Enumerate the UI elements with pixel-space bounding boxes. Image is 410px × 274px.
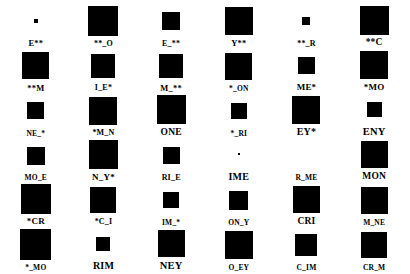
- cell-label: *C_I: [95, 218, 113, 226]
- swatch-container: [273, 227, 341, 262]
- grid-cell: MO_E: [2, 138, 70, 183]
- black-square-swatch: [295, 234, 317, 256]
- grid-cell: *M_N: [70, 93, 138, 138]
- black-square-swatch: [225, 7, 253, 35]
- cell-label: *MO: [364, 83, 385, 92]
- cell-label: IM_*: [162, 219, 180, 227]
- swatch-container: [205, 183, 273, 218]
- cell-label: **M: [27, 84, 44, 93]
- cell-label: E_**: [162, 40, 180, 48]
- cell-label: *_ON: [229, 85, 249, 93]
- black-square-swatch: [225, 53, 252, 80]
- black-square-swatch: [302, 17, 310, 25]
- cell-label: ENY: [363, 127, 386, 138]
- cell-label: NEY: [160, 261, 183, 272]
- black-square-swatch: [231, 103, 247, 119]
- swatch-container: [2, 49, 70, 83]
- swatch-container: [205, 227, 273, 262]
- grid-cell: **M: [2, 49, 70, 94]
- grid-cell: I_E*: [70, 49, 138, 94]
- black-square-swatch: [96, 237, 110, 251]
- swatch-container: [205, 4, 273, 38]
- black-square-swatch: [162, 12, 180, 30]
- swatch-container: [2, 4, 70, 38]
- swatch-container: [205, 49, 273, 84]
- swatch-container: [2, 183, 70, 217]
- grid-cell: *C_I: [70, 183, 138, 228]
- cell-label: RIM: [93, 261, 114, 271]
- black-square-swatch: [158, 230, 185, 257]
- cell-label: I_E*: [95, 84, 112, 92]
- black-square-swatch: [360, 51, 388, 79]
- cell-label: ONE: [161, 128, 182, 138]
- grid-cell: R_ME: [273, 138, 341, 183]
- swatch-container: [2, 138, 70, 173]
- cell-label: MON: [362, 172, 386, 182]
- swatch-container: [2, 227, 70, 262]
- grid-cell: *_ON: [205, 49, 273, 94]
- swatch-container: [340, 49, 408, 83]
- cell-label: Y**: [231, 39, 246, 48]
- swatch-container: [70, 183, 138, 218]
- grid-cell: ON_Y: [205, 183, 273, 228]
- black-square-swatch: [360, 6, 389, 35]
- black-square-swatch: [27, 147, 45, 165]
- cell-label: C_IM: [297, 264, 317, 272]
- black-square-swatch: [361, 232, 387, 258]
- grid-cell: E_**: [137, 4, 205, 49]
- grid-cell: *CR: [2, 183, 70, 228]
- cell-label: M_NE: [363, 219, 385, 227]
- swatch-container: [137, 49, 205, 83]
- black-square-swatch: [163, 147, 180, 164]
- cell-label: RI_E: [162, 174, 181, 182]
- black-square-swatch: [367, 102, 382, 117]
- black-square-swatch: [34, 19, 38, 23]
- cell-label: **C: [366, 38, 383, 48]
- grid-cell: Y**: [205, 4, 273, 49]
- grid-cell: *_RI: [205, 93, 273, 138]
- cell-label: O_EY: [228, 264, 249, 272]
- black-square-swatch: [27, 102, 44, 119]
- swatch-container: [273, 183, 341, 216]
- grid-cell: E**: [2, 4, 70, 49]
- swatch-container: [340, 4, 408, 37]
- cell-label: NE_*: [26, 130, 45, 138]
- black-square-swatch: [90, 187, 116, 213]
- grid-cell: ME*: [273, 49, 341, 94]
- grid-cell: NE_*: [2, 93, 70, 138]
- cell-label: M_**: [160, 84, 182, 93]
- swatch-container: [340, 93, 408, 125]
- black-square-swatch: [88, 6, 118, 36]
- grid-cell: N_Y*: [70, 138, 138, 183]
- grid-cell: *MO: [340, 49, 408, 94]
- swatch-container: [340, 183, 408, 218]
- cell-label: CR_M: [363, 264, 385, 272]
- swatch-container: [273, 138, 341, 173]
- grid-cell: **_R: [273, 4, 341, 49]
- black-square-swatch: [89, 140, 118, 169]
- grid-cell: **_O: [70, 4, 138, 49]
- cell-label: **_O: [94, 40, 113, 48]
- black-square-swatch: [229, 191, 248, 210]
- grid-cell: M_**: [137, 49, 205, 94]
- swatch-container: [205, 93, 273, 128]
- swatch-container: [340, 138, 408, 171]
- cell-label: *M_N: [92, 129, 114, 137]
- black-square-swatch: [159, 54, 183, 78]
- black-square-swatch: [22, 52, 49, 79]
- grid-cell: **C: [340, 4, 408, 49]
- cell-label: R_ME: [295, 174, 317, 182]
- cell-label: E**: [28, 39, 43, 48]
- swatch-container: [70, 93, 138, 128]
- square-label-grid: E****_OE_**Y****_R**C**MI_E*M_***_ONME**…: [0, 0, 410, 274]
- grid-cell: C_IM: [273, 227, 341, 272]
- cell-label: ME*: [297, 83, 317, 92]
- grid-cell: O_EY: [205, 227, 273, 272]
- grid-cell: IM_*: [137, 183, 205, 228]
- grid-cell: CR_M: [340, 227, 408, 272]
- grid-cell: MON: [340, 138, 408, 183]
- black-square-swatch: [163, 192, 179, 208]
- swatch-container: [273, 49, 341, 83]
- swatch-container: [70, 138, 138, 172]
- cell-label: ON_Y: [228, 219, 249, 227]
